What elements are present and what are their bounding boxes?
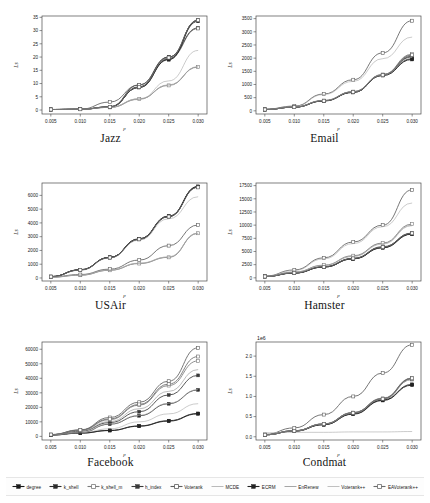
svg-text:0.030: 0.030 xyxy=(192,286,204,291)
svg-text:12500: 12500 xyxy=(239,210,252,215)
svg-text:0.010: 0.010 xyxy=(289,286,301,291)
panel-email-plot: 05001000150020002500300035000.0050.0100.… xyxy=(222,6,427,146)
svg-text:40000: 40000 xyxy=(25,376,38,381)
legend-item-enrenew[interactable]: EnRenew xyxy=(284,483,319,490)
svg-text:1000: 1000 xyxy=(28,262,39,267)
svg-text:Ls: Ls xyxy=(227,388,233,394)
svg-text:0: 0 xyxy=(35,108,38,113)
legend-label: k_shell_m xyxy=(101,483,122,490)
svg-text:p: p xyxy=(122,126,126,131)
legend-label: Voterank++ xyxy=(341,483,365,490)
legend: degreek_shellk_shell_mh_indexVoterankMCD… xyxy=(6,477,424,496)
legend-marker-icon xyxy=(247,483,260,490)
legend-item-voterank-[interactable]: Voterank++ xyxy=(327,483,366,490)
svg-text:10000: 10000 xyxy=(25,420,38,425)
svg-text:3000: 3000 xyxy=(242,30,253,35)
svg-text:3500: 3500 xyxy=(242,16,253,21)
panel-usair-plot: 01000200030004000500060000.0050.0100.015… xyxy=(8,173,213,313)
panel-facebook-plot: 01000020000300004000050000600000.0050.01… xyxy=(8,332,213,472)
svg-text:0.020: 0.020 xyxy=(347,286,359,291)
panel-condmat-title: Condmat xyxy=(222,456,427,468)
panel-hamster: 0250050007500100001250015000175000.0050.… xyxy=(222,173,427,313)
panel-hamster-plot: 0250050007500100001250015000175000.0050.… xyxy=(222,173,427,313)
legend-marker-icon xyxy=(87,483,100,490)
svg-text:0.030: 0.030 xyxy=(406,119,418,124)
svg-text:2000: 2000 xyxy=(242,56,253,61)
svg-text:15000: 15000 xyxy=(239,197,252,202)
svg-text:0.020: 0.020 xyxy=(133,286,145,291)
panel-email-title: Email xyxy=(222,132,427,144)
legend-marker-icon xyxy=(327,483,340,490)
svg-text:0.025: 0.025 xyxy=(163,286,175,291)
svg-text:1e6: 1e6 xyxy=(257,335,266,341)
svg-text:2500: 2500 xyxy=(242,262,253,267)
svg-text:0.010: 0.010 xyxy=(75,119,87,124)
panel-condmat-plot: 1e60.00.51.01.52.00.0050.0100.0150.0200.… xyxy=(222,332,427,472)
svg-text:0.030: 0.030 xyxy=(406,445,418,450)
svg-text:0.005: 0.005 xyxy=(45,286,57,291)
legend-label: h_index xyxy=(145,483,161,490)
svg-text:7500: 7500 xyxy=(242,236,253,241)
svg-text:15: 15 xyxy=(33,68,39,73)
legend-marker-icon xyxy=(49,483,62,490)
svg-text:0.015: 0.015 xyxy=(318,286,330,291)
legend-label: EAVoterank++ xyxy=(388,483,418,490)
svg-text:0.015: 0.015 xyxy=(104,119,116,124)
svg-text:Ls: Ls xyxy=(227,229,233,235)
svg-text:50000: 50000 xyxy=(25,362,38,367)
svg-text:1000: 1000 xyxy=(242,82,253,87)
legend-item-h-index[interactable]: h_index xyxy=(131,483,162,490)
svg-text:0.0: 0.0 xyxy=(246,435,253,440)
legend-item-k-shell[interactable]: k_shell xyxy=(49,483,78,490)
svg-text:0.020: 0.020 xyxy=(347,445,359,450)
svg-text:60000: 60000 xyxy=(25,347,38,352)
svg-text:6000: 6000 xyxy=(28,193,39,198)
svg-text:0.010: 0.010 xyxy=(289,119,301,124)
legend-item-voterank[interactable]: Voterank xyxy=(170,483,203,490)
panel-jazz-title: Jazz xyxy=(8,132,213,144)
legend-marker-icon xyxy=(373,483,386,490)
legend-marker-icon xyxy=(12,483,25,490)
svg-text:2500: 2500 xyxy=(242,43,253,48)
svg-text:30000: 30000 xyxy=(25,391,38,396)
svg-text:Ls: Ls xyxy=(13,388,19,394)
svg-text:0.025: 0.025 xyxy=(163,445,175,450)
legend-item-k-shell-m[interactable]: k_shell_m xyxy=(87,483,123,490)
svg-text:p: p xyxy=(336,293,340,298)
svg-text:0.030: 0.030 xyxy=(192,119,204,124)
svg-text:0.015: 0.015 xyxy=(104,286,116,291)
svg-text:0.020: 0.020 xyxy=(347,119,359,124)
legend-item-mcde[interactable]: MCDE xyxy=(211,483,239,490)
legend-label: ECRM xyxy=(262,483,276,490)
panel-jazz: 051015202530350.0050.0100.0150.0200.0250… xyxy=(8,6,213,146)
panel-facebook: 01000020000300004000050000600000.0050.01… xyxy=(8,332,213,472)
svg-text:0.020: 0.020 xyxy=(133,445,145,450)
panel-usair: 01000200030004000500060000.0050.0100.015… xyxy=(8,173,213,313)
svg-text:0.010: 0.010 xyxy=(289,445,301,450)
svg-text:p: p xyxy=(336,126,340,131)
svg-text:10000: 10000 xyxy=(239,223,252,228)
svg-text:0.010: 0.010 xyxy=(75,445,87,450)
svg-text:5: 5 xyxy=(35,95,38,100)
svg-text:0.005: 0.005 xyxy=(45,445,57,450)
svg-text:0.005: 0.005 xyxy=(259,286,271,291)
panel-email: 05001000150020002500300035000.0050.0100.… xyxy=(222,6,427,146)
svg-text:2.0: 2.0 xyxy=(246,354,253,359)
legend-item-eavoterank-[interactable]: EAVoterank++ xyxy=(373,483,417,490)
svg-text:0: 0 xyxy=(35,434,38,439)
svg-text:0.025: 0.025 xyxy=(377,286,389,291)
legend-marker-icon xyxy=(170,483,183,490)
legend-item-degree[interactable]: degree xyxy=(12,483,41,490)
svg-text:1.5: 1.5 xyxy=(246,374,253,379)
svg-text:5000: 5000 xyxy=(28,207,39,212)
svg-text:0.015: 0.015 xyxy=(104,445,116,450)
svg-text:Ls: Ls xyxy=(13,229,19,235)
svg-text:0.5: 0.5 xyxy=(246,414,253,419)
svg-text:0.020: 0.020 xyxy=(133,119,145,124)
svg-text:0.015: 0.015 xyxy=(318,445,330,450)
svg-text:0.025: 0.025 xyxy=(377,119,389,124)
legend-item-ecrm[interactable]: ECRM xyxy=(247,483,275,490)
svg-text:20: 20 xyxy=(33,55,39,60)
svg-text:17500: 17500 xyxy=(239,183,252,188)
svg-text:35: 35 xyxy=(33,15,39,20)
